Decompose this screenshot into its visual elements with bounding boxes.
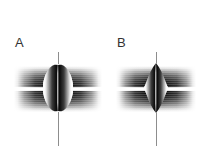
panel-b: B <box>0 0 208 168</box>
panel-label-b: B <box>117 36 126 49</box>
figure-root: A B <box>0 0 208 168</box>
